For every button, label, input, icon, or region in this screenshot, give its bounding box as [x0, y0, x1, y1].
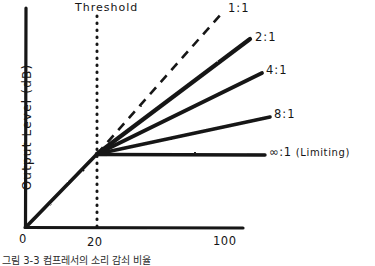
ratio-label-8-1: 8:1 [274, 107, 296, 121]
x-tick-100: 100 [213, 234, 236, 248]
x-tick-0: 0 [19, 232, 27, 246]
x-axis [25, 228, 243, 229]
ratio-label-2-1: 2:1 [255, 30, 277, 44]
figure-caption: 그림 3-3 컴프레서의 소리 감쇠 비율 [2, 254, 151, 266]
y-axis-label: Output Level (dB) [20, 52, 34, 202]
x-tick-20: 20 [87, 235, 103, 249]
ratio-label-inf-1: ∞:1 (Limiting) [269, 145, 350, 159]
threshold-label: Threshold [75, 1, 138, 14]
ratio-label-1-1: 1:1 [228, 1, 250, 15]
below-threshold-segment [26, 154, 97, 227]
ratio-inf-symbol: ∞:1 [269, 145, 292, 159]
compressor-ratio-chart [0, 0, 375, 266]
ratio-label-4-1: 4:1 [266, 63, 288, 77]
ratio-line-inf-1 [97, 155, 265, 156]
limiting-label: (Limiting) [296, 147, 350, 158]
ratio-line-4-1 [97, 73, 262, 154]
